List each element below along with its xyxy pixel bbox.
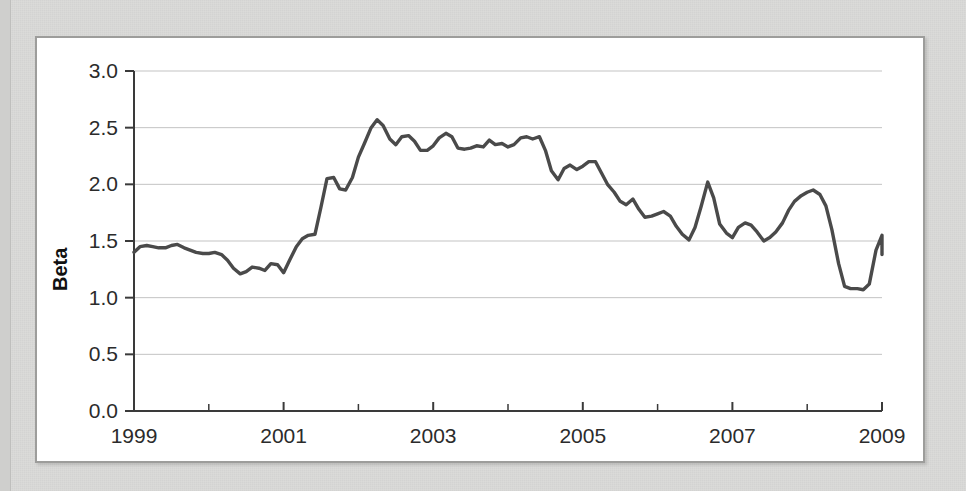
x-tick-label-2003: 2003 xyxy=(410,424,457,447)
y-tick-labels-group: 0.00.51.01.52.02.53.0 xyxy=(89,59,118,422)
x-tick-label-2005: 2005 xyxy=(559,424,606,447)
beta-line-chart: 0.00.51.01.52.02.53.0 199920012003200520… xyxy=(37,38,923,461)
y-tick-label-1.5: 1.5 xyxy=(89,229,118,252)
x-tick-marks-group xyxy=(134,402,882,411)
y-tick-label-1.0: 1.0 xyxy=(89,286,118,309)
y-tick-label-0.5: 0.5 xyxy=(89,342,118,365)
x-tick-label-2001: 2001 xyxy=(260,424,307,447)
y-tick-label-3.0: 3.0 xyxy=(89,59,118,82)
beta-series-line xyxy=(134,120,882,290)
y-axis-title: Beta xyxy=(49,247,71,291)
x-tick-label-2009: 2009 xyxy=(859,424,906,447)
y-tick-label-2.0: 2.0 xyxy=(89,172,118,195)
plot-area: 0.00.51.01.52.02.53.0 199920012003200520… xyxy=(37,38,923,461)
y-tick-label-0.0: 0.0 xyxy=(89,399,118,422)
x-tick-label-1999: 1999 xyxy=(111,424,158,447)
page-left-margin-strip xyxy=(0,0,11,491)
gridlines-group xyxy=(134,71,882,354)
y-tick-marks-group xyxy=(125,71,134,411)
chart-panel: 0.00.51.01.52.02.53.0 199920012003200520… xyxy=(35,36,925,463)
y-tick-label-2.5: 2.5 xyxy=(89,116,118,139)
x-tick-label-2007: 2007 xyxy=(709,424,756,447)
x-tick-labels-group: 199920012003200520072009 xyxy=(111,424,906,447)
